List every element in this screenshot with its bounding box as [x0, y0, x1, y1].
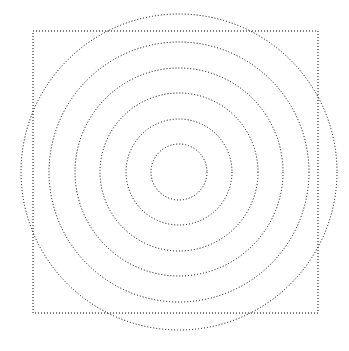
background [0, 0, 349, 351]
concentric-circles-diagram [0, 0, 349, 351]
figure-canvas [0, 0, 349, 351]
